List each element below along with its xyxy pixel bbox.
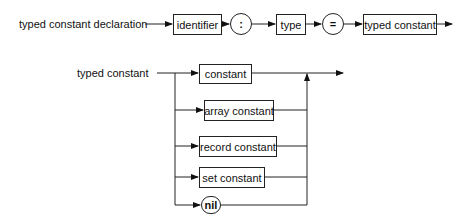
alt-constant: constant [199, 64, 252, 84]
terminal-colon: : [230, 13, 252, 35]
nonterminal-type: type [276, 14, 306, 35]
rule-label-typed-constant-declaration: typed constant declaration [19, 18, 147, 30]
alt-set-constant: set constant [199, 167, 265, 188]
terminal-equals: = [322, 13, 344, 35]
rule-label-typed-constant: typed constant [77, 67, 149, 79]
nonterminal-typed-constant: typed constant [363, 14, 437, 35]
alt-nil: nil [201, 196, 221, 214]
alt-array-constant: array constant [204, 100, 274, 121]
alt-record-constant: record constant [199, 136, 277, 157]
nonterminal-identifier: identifier [173, 14, 222, 35]
